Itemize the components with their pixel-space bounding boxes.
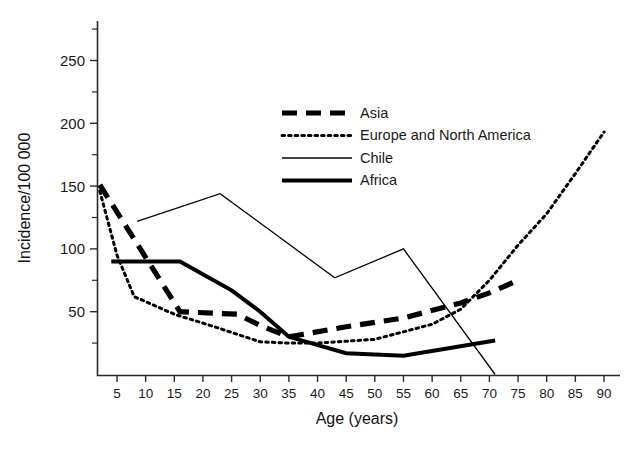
x-tick-label: 75 xyxy=(511,386,526,401)
x-tick-label: 80 xyxy=(539,386,554,401)
y-tick-label: 100 xyxy=(60,240,85,257)
x-tick-label: 20 xyxy=(195,386,210,401)
y-tick-label: 50 xyxy=(68,303,85,320)
x-tick-label: 35 xyxy=(281,386,296,401)
chart-container: 50100150200250 5101520253035404550556065… xyxy=(0,0,634,454)
x-tick-label: 50 xyxy=(367,386,382,401)
y-axis-title: Incidence/100 000 xyxy=(16,133,33,264)
incidence-by-age-line-chart: 50100150200250 5101520253035404550556065… xyxy=(0,0,634,454)
x-tick-label: 40 xyxy=(310,386,325,401)
y-tick-label: 150 xyxy=(60,178,85,195)
x-tick-label: 60 xyxy=(425,386,440,401)
y-tick-label: 200 xyxy=(60,115,85,132)
y-tick-label: 250 xyxy=(60,52,85,69)
series-line-europe-and-north-america xyxy=(100,132,604,343)
x-tick-label: 65 xyxy=(453,386,468,401)
x-tick-label: 85 xyxy=(568,386,583,401)
x-tick-label: 45 xyxy=(339,386,354,401)
legend-label-chile: Chile xyxy=(360,150,393,166)
x-axis-title: Age (years) xyxy=(316,410,399,427)
chart-legend: AsiaEurope and North AmericaChileAfrica xyxy=(282,105,532,189)
x-tick-label: 15 xyxy=(167,386,182,401)
x-axis: 51015202530354045505560657075808590 xyxy=(113,376,611,402)
x-tick-label: 90 xyxy=(596,386,611,401)
legend-label-asia: Asia xyxy=(360,105,389,121)
chart-axes xyxy=(98,21,621,376)
series-line-chile xyxy=(137,194,495,375)
legend-label-europe-and-north-america: Europe and North America xyxy=(360,127,532,143)
x-tick-label: 70 xyxy=(482,386,497,401)
x-tick-label: 5 xyxy=(113,386,121,401)
x-tick-label: 30 xyxy=(253,386,268,401)
x-tick-label: 55 xyxy=(396,386,411,401)
y-axis: 50100150200250 xyxy=(60,29,98,343)
x-tick-label: 10 xyxy=(138,386,153,401)
data-series-group xyxy=(100,132,604,374)
legend-label-africa: Africa xyxy=(360,172,398,188)
x-tick-label: 25 xyxy=(224,386,239,401)
